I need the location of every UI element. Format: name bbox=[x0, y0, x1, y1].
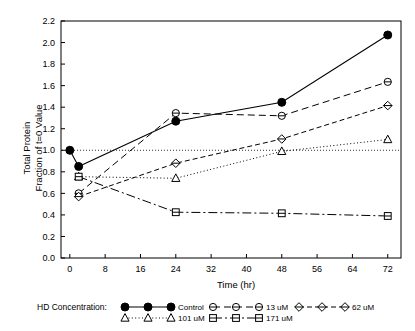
data-point bbox=[384, 31, 392, 39]
data-point bbox=[384, 78, 391, 85]
y-tick-label: 0.2 bbox=[42, 232, 55, 242]
x-tick-label: 0 bbox=[67, 264, 72, 274]
chart-figure: 0.00.20.40.60.81.01.21.41.61.82.02.2 081… bbox=[0, 0, 415, 331]
data-point bbox=[66, 146, 74, 154]
legend-marker bbox=[209, 303, 216, 310]
data-point bbox=[384, 213, 391, 220]
chart-background bbox=[0, 0, 415, 331]
y-axis-title-line1: Total Protein bbox=[21, 122, 32, 175]
x-tick-label: 48 bbox=[277, 264, 287, 274]
x-tick-label: 72 bbox=[383, 264, 393, 274]
legend-marker bbox=[255, 303, 262, 310]
legend-title: HD Concentration: bbox=[37, 302, 107, 312]
y-tick-label: 0.0 bbox=[42, 253, 55, 263]
y-tick-label: 1.8 bbox=[42, 59, 55, 69]
y-tick-label: 1.0 bbox=[42, 145, 55, 155]
legend-marker bbox=[121, 303, 129, 311]
protein-timecourse-chart: 0.00.20.40.60.81.01.21.41.61.82.02.2 081… bbox=[0, 0, 415, 331]
y-tick-label: 2.0 bbox=[42, 38, 55, 48]
data-point bbox=[172, 117, 180, 125]
y-tick-label: 1.2 bbox=[42, 124, 55, 134]
legend-label: Control bbox=[178, 303, 204, 312]
x-tick-label: 32 bbox=[206, 264, 216, 274]
y-tick-label: 1.4 bbox=[42, 102, 55, 112]
legend-marker bbox=[144, 303, 152, 311]
y-tick-label: 0.6 bbox=[42, 189, 55, 199]
legend-label: 171 uM bbox=[266, 314, 293, 323]
legend-label: 13 uM bbox=[266, 303, 289, 312]
legend-label: 101 uM bbox=[178, 314, 205, 323]
data-point bbox=[278, 112, 285, 119]
y-tick-label: 1.6 bbox=[42, 81, 55, 91]
legend-marker bbox=[233, 315, 240, 322]
legend-marker bbox=[167, 303, 175, 311]
x-tick-label: 8 bbox=[103, 264, 108, 274]
y-tick-label: 2.2 bbox=[42, 16, 55, 26]
x-tick-label: 64 bbox=[347, 264, 357, 274]
x-tick-label: 16 bbox=[135, 264, 145, 274]
y-axis-title-line2: Fraction of t=0 Value bbox=[33, 104, 44, 191]
y-tick-label: 0.8 bbox=[42, 167, 55, 177]
legend-marker bbox=[256, 315, 263, 322]
x-axis-title: Time (hr) bbox=[217, 279, 255, 290]
legend-label: 62 uM bbox=[352, 303, 375, 312]
data-point bbox=[75, 162, 83, 170]
data-point bbox=[278, 210, 285, 217]
legend-marker bbox=[232, 303, 239, 310]
data-point bbox=[278, 98, 286, 106]
x-tick-label: 24 bbox=[171, 264, 181, 274]
legend-marker bbox=[210, 315, 217, 322]
x-tick-label: 40 bbox=[241, 264, 251, 274]
data-point bbox=[172, 110, 179, 117]
x-tick-label: 56 bbox=[312, 264, 322, 274]
data-point bbox=[75, 173, 82, 180]
y-tick-label: 0.4 bbox=[42, 210, 55, 220]
data-point bbox=[172, 209, 179, 216]
